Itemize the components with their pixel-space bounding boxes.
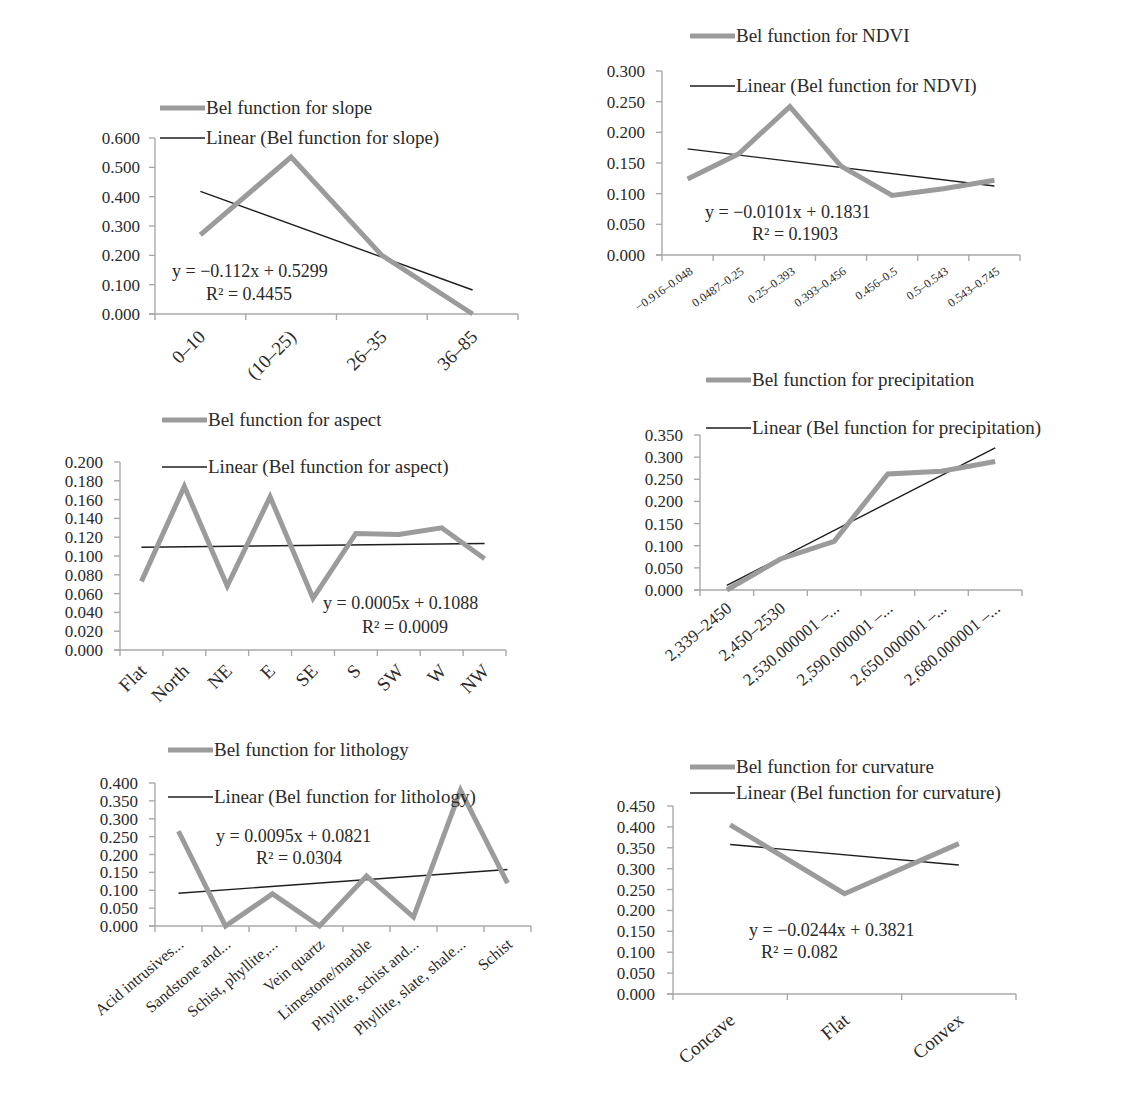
y-tick-label: 0.180 — [65, 472, 103, 491]
legend-label: Linear (Bel function for precipitation) — [752, 417, 1041, 439]
x-tick-label: E — [256, 660, 279, 683]
y-tick-label: 0.040 — [65, 603, 103, 622]
y-tick-label: 0.500 — [102, 158, 140, 177]
series-line — [688, 107, 995, 196]
legend-label: Linear (Bel function for slope) — [206, 127, 439, 149]
y-tick-label: 0.300 — [607, 62, 645, 81]
y-tick-label: 0.250 — [100, 828, 138, 847]
chart-ndvi-group: 0.0000.0500.1000.1500.2000.2500.300−0.91… — [607, 25, 1020, 314]
y-tick-label: 0.250 — [607, 93, 645, 112]
y-tick-label: 0.120 — [65, 528, 103, 547]
chart-aspect-group: 0.0000.0200.0400.0600.0800.1000.1200.140… — [65, 409, 506, 706]
y-tick-label: 0.100 — [607, 185, 645, 204]
chart-slope-group: 0.0000.1000.2000.3000.4000.5000.6000–10(… — [102, 97, 518, 384]
chart-curvature-group: 0.0000.0500.1000.1500.2000.2500.3000.350… — [617, 756, 1016, 1068]
y-tick-label: 0.350 — [617, 839, 655, 858]
x-tick-label: W — [423, 660, 451, 688]
legend-label: Bel function for curvature — [736, 756, 934, 777]
y-tick-label: 0.200 — [645, 492, 683, 511]
trendline — [179, 869, 508, 893]
y-tick-label: 0.400 — [100, 774, 138, 793]
y-tick-label: 0.150 — [100, 863, 138, 882]
x-tick-label: 2,530.000001 –... — [739, 599, 842, 690]
y-tick-label: 0.100 — [645, 537, 683, 556]
x-tick-label: 0–10 — [167, 326, 209, 368]
chart-precipitation-group: 0.0000.0500.1000.1500.2000.2500.3000.350… — [645, 369, 1041, 690]
x-tick-label: 26–35 — [342, 326, 390, 374]
x-tick-label: 2,650.000001 –... — [847, 599, 950, 690]
y-tick-label: 0.200 — [102, 246, 140, 265]
y-tick-label: 0.000 — [607, 246, 645, 265]
y-tick-label: 0.350 — [100, 792, 138, 811]
x-tick-label: SE — [291, 660, 322, 691]
y-tick-label: 0.250 — [617, 881, 655, 900]
y-tick-label: 0.060 — [65, 585, 103, 604]
x-tick-label: 2,590.000001 –... — [793, 599, 896, 690]
y-tick-label: 0.400 — [617, 818, 655, 837]
y-tick-label: 0.000 — [617, 985, 655, 1004]
y-tick-label: 0.200 — [100, 846, 138, 865]
y-tick-label: 0.250 — [645, 470, 683, 489]
legend-label: Linear (Bel function for curvature) — [736, 782, 1001, 804]
y-tick-label: 0.000 — [102, 305, 140, 324]
y-tick-label: 0.100 — [100, 881, 138, 900]
y-tick-label: 0.000 — [65, 641, 103, 660]
y-tick-label: 0.050 — [617, 964, 655, 983]
y-tick-label: 0.100 — [65, 547, 103, 566]
legend-label: Linear (Bel function for NDVI) — [736, 75, 977, 97]
legend-label: Bel function for aspect — [208, 409, 382, 430]
trend-equation: y = −0.112x + 0.5299 — [172, 261, 328, 281]
y-tick-label: 0.600 — [102, 129, 140, 148]
legend-label: Bel function for lithology — [214, 739, 409, 760]
y-tick-label: 0.300 — [645, 448, 683, 467]
y-tick-label: 0.350 — [645, 426, 683, 445]
y-tick-label: 0.200 — [617, 901, 655, 920]
y-tick-label: 0.400 — [102, 188, 140, 207]
x-tick-label: 0.456–0.5 — [853, 264, 900, 303]
y-tick-label: 0.200 — [607, 123, 645, 142]
x-tick-label: NE — [203, 660, 236, 693]
trend-r-squared: R² = 0.4455 — [206, 284, 292, 304]
y-tick-label: 0.300 — [617, 860, 655, 879]
trend-equation: y = 0.0005x + 0.1088 — [323, 593, 478, 613]
y-tick-label: 0.450 — [617, 797, 655, 816]
x-tick-label: −0.916–0.048 — [633, 264, 696, 314]
x-tick-label: Flat — [115, 659, 151, 695]
legend-label: Bel function for NDVI — [736, 25, 910, 46]
trend-r-squared: R² = 0.082 — [761, 942, 838, 962]
legend-label: Bel function for precipitation — [752, 369, 975, 390]
y-tick-label: 0.100 — [617, 943, 655, 962]
legend-label: Bel function for slope — [206, 97, 372, 118]
x-tick-label: (10–25) — [243, 326, 301, 384]
x-tick-label: Schist — [475, 935, 516, 974]
y-tick-label: 0.100 — [102, 276, 140, 295]
trend-equation: y = 0.0095x + 0.0821 — [216, 826, 371, 846]
x-tick-label: 2,680.000001 –... — [900, 599, 1003, 690]
x-tick-label: 36–85 — [433, 326, 481, 374]
y-tick-label: 0.200 — [65, 453, 103, 472]
x-tick-label: Concave — [674, 1009, 738, 1068]
trend-r-squared: R² = 0.0009 — [362, 617, 448, 637]
y-tick-label: 0.050 — [607, 215, 645, 234]
y-tick-label: 0.140 — [65, 509, 103, 528]
y-tick-label: 0.160 — [65, 491, 103, 510]
y-tick-label: 0.050 — [100, 899, 138, 918]
trend-r-squared: R² = 0.1903 — [752, 224, 838, 244]
trend-equation: y = −0.0244x + 0.3821 — [749, 920, 914, 940]
trend-r-squared: R² = 0.0304 — [256, 848, 342, 868]
y-tick-label: 0.050 — [645, 559, 683, 578]
trendline — [141, 543, 484, 547]
y-tick-label: 0.150 — [617, 922, 655, 941]
x-tick-label: 0.5–0.543 — [904, 264, 951, 303]
series-line — [730, 825, 959, 894]
x-tick-label: S — [342, 660, 364, 682]
x-tick-label: SW — [373, 660, 408, 695]
y-tick-label: 0.300 — [102, 217, 140, 236]
y-tick-label: 0.300 — [100, 810, 138, 829]
y-tick-label: 0.020 — [65, 622, 103, 641]
x-tick-label: Flat — [817, 1009, 854, 1045]
x-tick-label: NW — [456, 660, 493, 697]
x-tick-label: 0.25–0.393 — [745, 264, 797, 306]
chart-lithology-group: 0.0000.0500.1000.1500.2000.2500.3000.350… — [92, 739, 531, 1039]
x-tick-label: Convex — [909, 1009, 968, 1063]
